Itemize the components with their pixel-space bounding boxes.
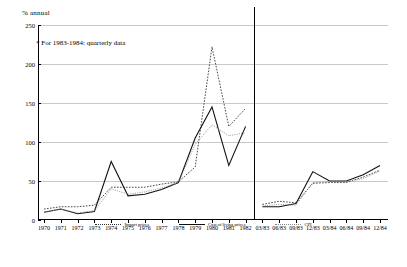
legend-item[interactable]: Import prices: [95, 222, 149, 227]
legend-item[interactable]: CPI: [275, 222, 311, 227]
chart-figure: % annual * For 1983-1984: quarterly data…: [0, 0, 407, 267]
y-axis-unit-label: % annual: [22, 9, 50, 17]
legend-item-label: CPI: [304, 222, 311, 227]
plot-area: 050100150200250 197019711972197319741975…: [38, 25, 388, 220]
legend-item-label: Cost of living prices: [208, 222, 245, 227]
y-axis-tick-label: 50: [9, 178, 38, 185]
series-line: [44, 125, 246, 213]
chart-legend: Import pricesCost of living pricesCPI: [0, 216, 407, 232]
y-axis-tick-label: 200: [9, 61, 38, 68]
y-axis-tick-label: 100: [9, 139, 38, 146]
period-divider-line: [254, 7, 255, 220]
series-line: [44, 47, 246, 209]
legend-swatch-icon: [95, 222, 121, 226]
y-axis-tick-label: 250: [9, 22, 38, 29]
y-axis-tick-label: 150: [9, 100, 38, 107]
legend-swatch-icon: [179, 222, 205, 226]
series-lines: [38, 25, 388, 220]
legend-item-label: Import prices: [124, 222, 149, 227]
series-line: [262, 165, 380, 206]
y-axis-labels: 050100150200250: [10, 25, 38, 220]
legend-item[interactable]: Cost of living prices: [179, 222, 245, 227]
legend-swatch-icon: [275, 222, 301, 226]
series-line: [44, 107, 246, 214]
